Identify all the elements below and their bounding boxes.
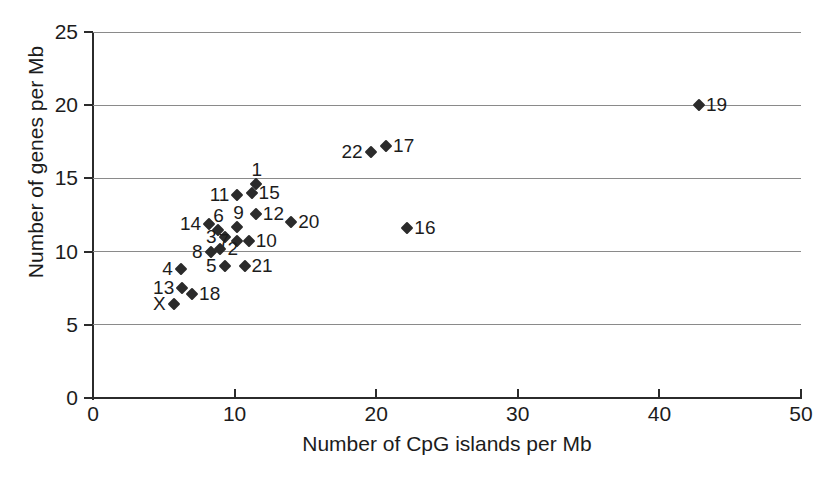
x-tick-label-0: 0: [63, 403, 123, 424]
data-point-label-9: 9: [233, 203, 244, 222]
x-tick-label-50: 50: [771, 403, 831, 424]
data-point-label-X: X: [153, 294, 166, 313]
y-tick-10: [84, 251, 93, 253]
gridline-y-5: [93, 324, 801, 325]
x-tick-20: [375, 389, 377, 398]
x-tick-30: [517, 389, 519, 398]
x-tick-label-20: 20: [346, 403, 406, 424]
data-point-label-18: 18: [199, 284, 220, 303]
y-axis-label: Number of genes per Mb: [24, 0, 48, 342]
x-tick-50: [800, 389, 802, 398]
data-point-label-21: 21: [252, 256, 273, 275]
data-point-label-12: 12: [263, 203, 284, 222]
x-tick-10: [234, 389, 236, 398]
y-axis-line: [92, 32, 94, 400]
x-tick-0: [92, 389, 94, 398]
data-point-label-5: 5: [206, 256, 217, 275]
data-point-label-14: 14: [180, 213, 201, 232]
gridline-y-15: [93, 178, 801, 179]
x-tick-label-40: 40: [629, 403, 689, 424]
data-point-label-3: 3: [206, 226, 217, 245]
data-point-label-11: 11: [210, 184, 230, 203]
data-point-label-19: 19: [706, 95, 727, 114]
data-point-label-2: 2: [227, 238, 238, 257]
x-tick-label-30: 30: [488, 403, 548, 424]
data-point-label-8: 8: [192, 241, 203, 260]
data-point-label-20: 20: [298, 212, 319, 231]
x-tick-40: [658, 389, 660, 398]
y-tick-20: [84, 104, 93, 106]
x-axis-line: [93, 397, 802, 399]
data-point-label-4: 4: [162, 259, 173, 278]
data-point-label-17: 17: [393, 136, 414, 155]
y-tick-15: [84, 177, 93, 179]
chart-page: 0510152025 01020304050 11115146912203710…: [0, 0, 832, 479]
data-point-label-1: 1: [252, 160, 263, 179]
y-tick-25: [84, 31, 93, 33]
x-tick-label-10: 10: [205, 403, 265, 424]
data-point-label-6: 6: [213, 206, 224, 225]
data-point-label-10: 10: [256, 231, 277, 250]
y-tick-5: [84, 324, 93, 326]
x-axis-label: Number of CpG islands per Mb: [93, 432, 801, 456]
data-point-label-15: 15: [259, 183, 280, 202]
data-point-label-16: 16: [414, 218, 435, 237]
data-point-label-22: 22: [341, 142, 362, 161]
gridline-y-25: [93, 32, 801, 33]
